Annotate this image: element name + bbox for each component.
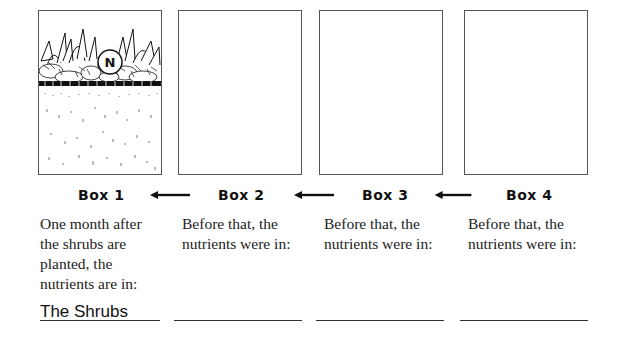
box-1-caption: One month after the shrubs are planted, … [40, 214, 162, 294]
box-2-caption: Before that, the nutrients were in: [182, 214, 306, 254]
box-3-caption: Before that, the nutrients were in: [324, 214, 448, 254]
box-1-label: Box 1 [78, 187, 124, 203]
box-2-label: Box 2 [218, 187, 264, 203]
arrow-left-icon [289, 191, 339, 199]
svg-text:N: N [105, 55, 116, 70]
arrow-left-icon [430, 191, 476, 199]
box-4-caption: Before that, the nutrients were in: [468, 214, 592, 254]
box-3-label: Box 3 [362, 187, 408, 203]
box-2-answer-line[interactable] [174, 320, 302, 321]
box-1-answer-line[interactable] [40, 320, 160, 321]
shrubs-soil-illustration: N [39, 11, 161, 174]
box-3-frame [319, 10, 443, 175]
box-1-frame: N [38, 10, 162, 175]
box-4-label: Box 4 [506, 187, 552, 203]
box-1-answer[interactable]: The Shrubs [40, 302, 128, 322]
arrow-left-icon [145, 191, 195, 199]
box-4-frame [464, 10, 588, 175]
box-3-answer-line[interactable] [316, 320, 444, 321]
box-4-answer-line[interactable] [460, 320, 588, 321]
box-2-frame [178, 10, 302, 175]
